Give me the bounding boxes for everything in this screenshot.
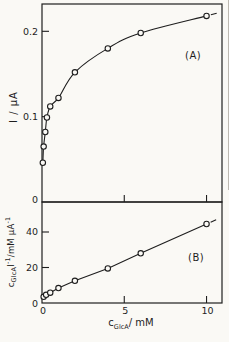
data-point: [40, 160, 45, 165]
data-point: [44, 115, 49, 120]
panel-b-y-axis-label: cGlcAI-1/mM μA-1: [4, 217, 19, 288]
data-point: [72, 278, 77, 283]
data-point: [48, 104, 53, 109]
panel-a-letter: (A): [185, 50, 201, 61]
data-curve: [43, 16, 207, 163]
ylabel-b-exponent-1: -1: [4, 257, 12, 264]
x-axis-label: cGlcA/ mM: [108, 317, 153, 331]
y-tick-label: 0.1: [23, 111, 38, 122]
ylabel-b-subscript: GlcA: [10, 267, 18, 283]
data-point: [204, 13, 209, 18]
data-point: [72, 70, 77, 75]
data-point: [43, 129, 48, 134]
y-tick-label: 0: [32, 194, 38, 205]
y-tick-label: 0: [32, 298, 38, 309]
y-tick-label: 0.2: [23, 26, 38, 37]
data-point: [56, 95, 61, 100]
x-tick-label: 0: [40, 305, 46, 316]
data-point: [105, 46, 110, 51]
trailing-dash: [211, 220, 216, 222]
x-tick-label: 10: [201, 305, 213, 316]
xlabel-units: / mM: [129, 317, 154, 328]
xlabel-subscript: GlcA: [114, 323, 129, 331]
data-point: [204, 221, 209, 226]
y-tick-label: 20: [26, 262, 38, 273]
data-point: [138, 30, 143, 35]
figure: 00.10.2020400510 I / μA cGlcAI-1/mM μA-1…: [0, 0, 229, 342]
data-point: [41, 144, 46, 149]
data-curve: [44, 224, 207, 297]
data-point: [56, 285, 61, 290]
panel-a-box: [42, 4, 222, 202]
data-point: [48, 290, 53, 295]
panel-b-letter: (B): [188, 252, 204, 263]
x-tick-label: 5: [122, 305, 128, 316]
ylabel-b-symbol: c: [6, 282, 16, 287]
y-tick-label: 40: [26, 226, 38, 237]
data-point: [105, 266, 110, 271]
trailing-dash: [211, 13, 217, 15]
ylabel-b-current-symbol: I: [6, 264, 16, 267]
scan-artifact-line: [228, 0, 229, 190]
data-point: [138, 251, 143, 256]
panel-a-y-axis-label: I / μA: [8, 91, 19, 123]
ylabel-b-exponent-2: -1: [4, 217, 12, 224]
ylabel-b-units: /mM μA: [6, 224, 16, 258]
